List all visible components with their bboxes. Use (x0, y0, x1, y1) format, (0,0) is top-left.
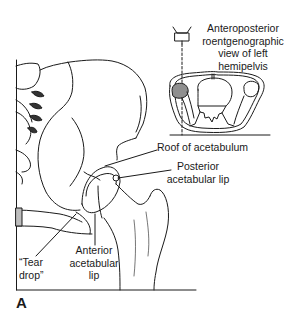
xray-source-icon (173, 27, 191, 44)
ilium (16, 60, 147, 210)
label-line: acetabular lip (160, 173, 236, 186)
inset-caption-line: roentgenographic (192, 35, 294, 48)
inset-caption-line: view of left (192, 47, 294, 60)
label-roof-of-acetabulum: Roof of acetabulum (157, 141, 248, 154)
label-line: “Tear (19, 256, 44, 269)
label-anterior-acetabular-lip: Anterior acetabular lip (66, 244, 122, 282)
inset-pelvis-crosssection (169, 72, 264, 133)
label-line: lip (66, 269, 122, 282)
label-tear-drop: “Tear drop” (19, 256, 44, 281)
inset-caption-line: hemipelvis (192, 60, 294, 73)
label-posterior-acetabular-lip: Posterior acetabular lip (160, 160, 236, 185)
label-line: drop” (19, 269, 44, 282)
label-line: Posterior (160, 160, 236, 173)
panel-label: A (16, 294, 27, 311)
label-line: Anterior (66, 244, 122, 257)
label-line: acetabular (66, 257, 122, 270)
inset-caption: Anteroposterior roentgenographic view of… (192, 22, 294, 72)
inset-caption-line: Anteroposterior (192, 22, 294, 35)
pubis (16, 208, 92, 234)
leader-roof (105, 150, 157, 166)
